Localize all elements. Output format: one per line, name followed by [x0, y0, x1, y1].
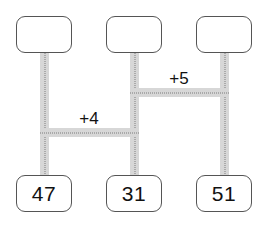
connector-vertical-col-1	[40, 46, 49, 182]
bottom-box-col-2-label: 31	[122, 183, 146, 204]
connector-vertical-col-3	[220, 46, 229, 182]
connector-horizontal-plus-5	[130, 88, 229, 97]
bottom-box-col-1-label: 47	[32, 183, 56, 204]
edge-label-plus-4: +4	[79, 110, 98, 127]
connector-horizontal-plus-4	[40, 128, 139, 137]
bottom-box-col-3[interactable]: 51	[196, 175, 252, 212]
connector-vertical-col-2	[130, 46, 139, 182]
bottom-box-col-3-label: 51	[212, 183, 236, 204]
top-box-col-1[interactable]	[16, 16, 72, 53]
diagram-canvas: +4 +5 47 31 51	[0, 0, 271, 227]
bottom-box-col-2[interactable]: 31	[106, 175, 162, 212]
top-box-col-3[interactable]	[196, 16, 252, 53]
edge-label-plus-5: +5	[169, 70, 188, 87]
top-box-col-2[interactable]	[106, 16, 162, 53]
bottom-box-col-1[interactable]: 47	[16, 175, 72, 212]
